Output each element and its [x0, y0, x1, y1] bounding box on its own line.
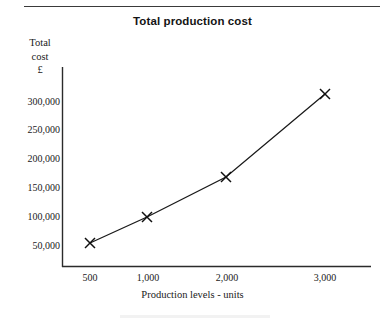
chart-page: Total production cost Total cost £ 300,0… [0, 0, 385, 323]
data-point-marker-500 [85, 238, 95, 248]
page-bottom-artifact [120, 315, 270, 318]
data-point-marker-3000 [320, 89, 330, 99]
chart-plot-area [0, 0, 385, 323]
data-point-marker-2000 [221, 172, 231, 182]
data-series-line [90, 94, 325, 243]
data-point-marker-1000 [142, 212, 152, 222]
